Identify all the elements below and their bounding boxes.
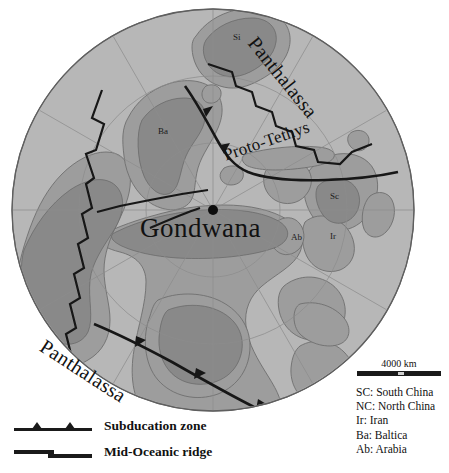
scale-bar: 4000 km	[355, 358, 445, 376]
mid-oceanic-ridge-icon	[14, 444, 92, 460]
abbreviation-item-ba: Ba: Baltica	[356, 428, 435, 442]
clipped-bottom-caption	[178, 463, 449, 473]
abbreviation-item-ab: Ab: Arabia	[356, 442, 435, 456]
terrane-label-ab: Ab	[291, 232, 302, 242]
abbreviation-legend: SC: South China NC: North China Ir: Iran…	[356, 385, 435, 456]
terrane-label-ir: Ir	[330, 231, 336, 241]
abbreviation-item-ir: Ir: Iran	[356, 413, 435, 427]
island-north-of-baltica	[202, 85, 221, 103]
terrane-label-ba: Ba	[158, 126, 168, 136]
scale-bar-label: 4000 km	[357, 358, 441, 370]
abbreviation-item-sc: SC: South China	[356, 385, 435, 399]
abbreviation-item-nc: NC: North China	[356, 399, 435, 413]
paleogeographic-map-figure: Panthalassa Panthalassa Proto-Tethys Gon…	[0, 0, 449, 473]
legend-row-mid-oceanic-ridge: Mid-Oceanic ridge	[14, 439, 212, 465]
legend-label-subduction-zone: Subducation zone	[104, 418, 206, 434]
symbol-legend: Subducation zone Mid-Oceanic ridge	[14, 413, 212, 465]
subduction-line-glyph	[14, 428, 92, 431]
scale-bar-track	[357, 371, 441, 376]
scale-bar-midpoint-gap	[398, 372, 404, 375]
subduction-zone-icon	[14, 418, 92, 434]
ridge-segment-offset-glyph	[48, 454, 92, 458]
legend-row-subduction-zone: Subducation zone	[14, 413, 212, 439]
supercontinent-label-gondwana: Gondwana	[140, 213, 261, 244]
terrane-label-si: Si	[233, 32, 241, 42]
subduction-triangle-glyph	[32, 422, 42, 429]
legend-label-mid-oceanic-ridge: Mid-Oceanic ridge	[104, 444, 212, 460]
subduction-triangle-glyph	[65, 422, 75, 429]
terrane-label-sc: Sc	[330, 191, 339, 201]
